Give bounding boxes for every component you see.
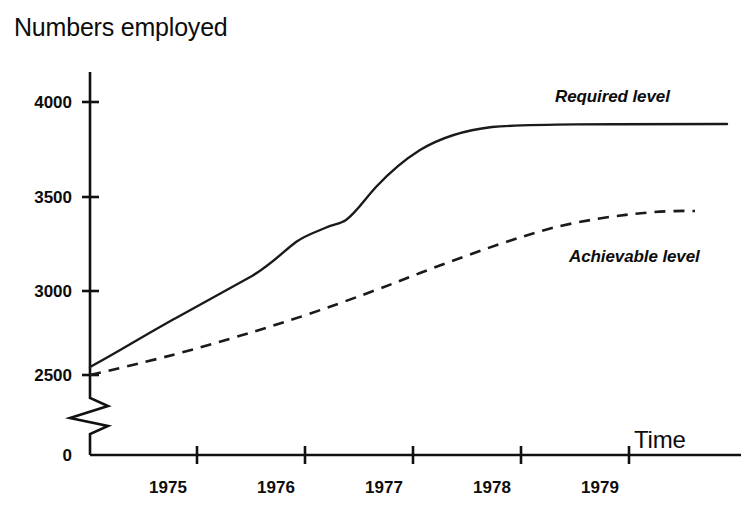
- series-label-achievable: Achievable level: [568, 247, 701, 266]
- x-tick-label-1978: 1978: [473, 478, 511, 497]
- y-tick-label-0: 0: [63, 446, 72, 465]
- series-line-achievable: [90, 211, 695, 375]
- axis-break-zigzag: [70, 390, 108, 455]
- y-tick-label-3500: 3500: [34, 188, 72, 207]
- x-tick-label-1975: 1975: [149, 478, 187, 497]
- y-tick-label-2500: 2500: [34, 366, 72, 385]
- series-line-required: [90, 124, 727, 367]
- y-tick-label-3000: 3000: [34, 282, 72, 301]
- series-label-required: Required level: [555, 87, 671, 106]
- x-axis-title: Time: [634, 426, 686, 453]
- x-tick-label-1976: 1976: [257, 478, 295, 497]
- page-title: Numbers employed: [14, 13, 228, 41]
- x-tick-label-1977: 1977: [365, 478, 403, 497]
- x-tick-label-1979: 1979: [581, 478, 619, 497]
- chart-canvas: Numbers employed 4000 3500 3000 2500 0 1…: [0, 0, 753, 520]
- chart-figure: Numbers employed 4000 3500 3000 2500 0 1…: [0, 0, 753, 520]
- y-tick-label-4000: 4000: [34, 93, 72, 112]
